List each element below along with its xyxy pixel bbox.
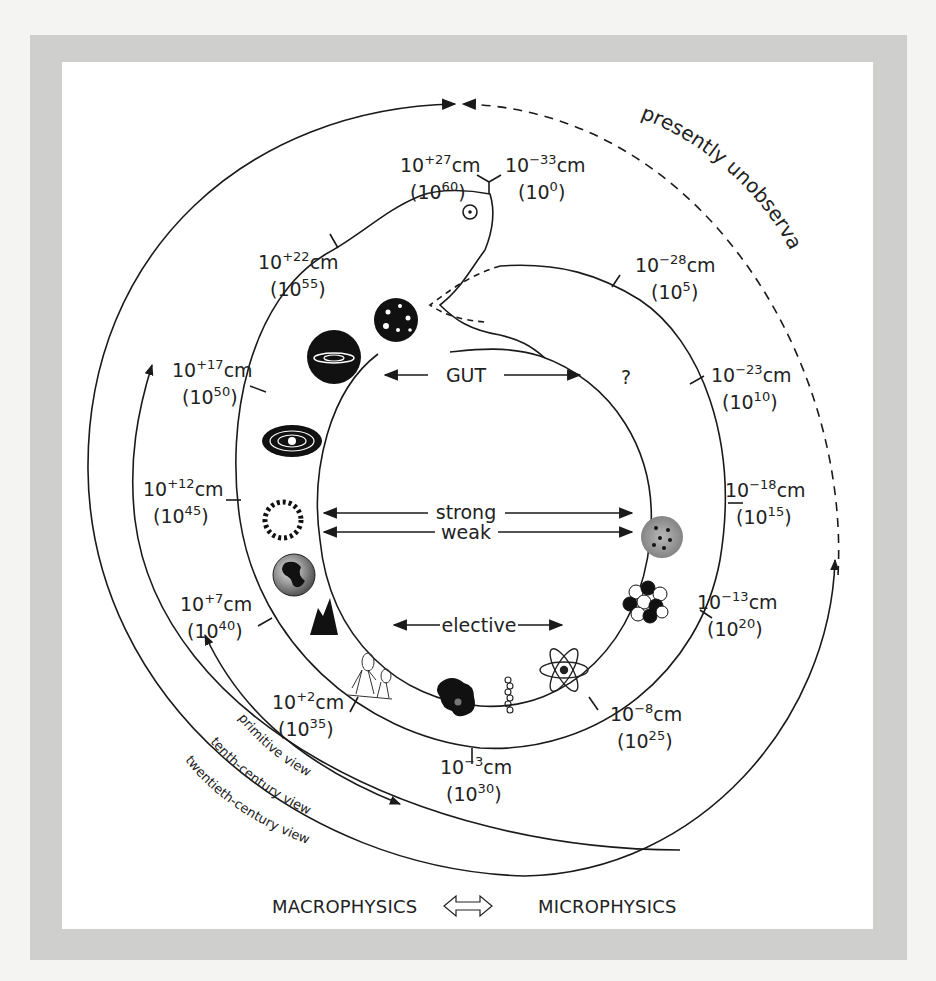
svg-text:10+2cm: 10+2cm	[272, 689, 344, 713]
proton-icon	[641, 516, 683, 558]
force-weak: weak	[441, 521, 491, 543]
force-gut: GUT	[446, 364, 487, 386]
scale-label-1e-33: 10−33cm (100)	[505, 152, 586, 203]
scale-label-1e22: 10+22cm (1055)	[258, 249, 339, 300]
sun-icon	[265, 502, 301, 538]
svg-text:(1035): (1035)	[278, 716, 334, 740]
nucleus-icon	[623, 581, 668, 623]
svg-text:10−8cm: 10−8cm	[610, 701, 682, 725]
svg-text:(105): (105)	[651, 279, 698, 303]
svg-text:10+22cm: 10+22cm	[258, 249, 339, 273]
svg-text:(1020): (1020)	[707, 616, 763, 640]
svg-text:10−13cm: 10−13cm	[697, 589, 778, 613]
svg-text:(1050): (1050)	[182, 384, 238, 408]
scale-label-1e12: 10+12cm (1045)	[143, 476, 224, 527]
scale-label-1e-13: 10−13cm (1020)	[697, 589, 778, 640]
macrophysics-label: MACROPHYSICS	[272, 896, 417, 917]
svg-text:10−33cm: 10−33cm	[505, 152, 586, 176]
svg-text:(1015): (1015)	[736, 504, 792, 528]
double-arrow-icon	[444, 896, 492, 916]
svg-text:10−28cm: 10−28cm	[635, 252, 716, 276]
svg-text:10−23cm: 10−23cm	[711, 362, 792, 386]
svg-text:10−3cm: 10−3cm	[440, 754, 512, 778]
uroboros-diagram: GUT ? strong weak elective	[0, 0, 936, 981]
svg-text:(1030): (1030)	[446, 781, 502, 805]
mountain-icon	[310, 598, 338, 635]
force-elective: elective	[442, 614, 517, 636]
svg-text:10+27cm: 10+27cm	[400, 152, 481, 176]
solar-system-icon	[262, 425, 322, 457]
scale-label-1e-8: 10−8cm (1025)	[610, 701, 682, 752]
scale-label-1e-23: 10−23cm (1010)	[711, 362, 792, 413]
scale-ticks	[226, 234, 743, 764]
svg-text:(100): (100)	[518, 179, 565, 203]
earth-icon	[273, 554, 315, 596]
scale-label-1e27: 10+27cm (1060)	[400, 152, 481, 203]
microphysics-label: MICROPHYSICS	[538, 896, 677, 917]
svg-text:(1060): (1060)	[410, 179, 466, 203]
cell-icon	[437, 678, 475, 716]
universe-cluster-icon	[374, 298, 418, 342]
svg-text:(1055): (1055)	[270, 276, 326, 300]
svg-text:10+7cm: 10+7cm	[180, 591, 252, 615]
galaxy-icon	[307, 330, 361, 384]
svg-text:(1045): (1045)	[153, 503, 209, 527]
force-arrows	[324, 375, 632, 625]
snake-tongue-icon	[477, 175, 501, 194]
force-unknown: ?	[621, 366, 631, 388]
scale-label-1e-3: 10−3cm (1030)	[440, 754, 512, 805]
scale-label-1e7: 10+7cm (1040)	[180, 591, 252, 642]
svg-text:10+17cm: 10+17cm	[172, 357, 253, 381]
force-strong: strong	[436, 501, 496, 523]
svg-text:(1025): (1025)	[617, 728, 673, 752]
humans-icon	[348, 653, 392, 699]
svg-text:(1010): (1010)	[722, 389, 778, 413]
presently-unobservable-label: presently unobservable	[0, 0, 807, 253]
dna-icon	[505, 677, 513, 713]
svg-text:(1040): (1040)	[187, 618, 243, 642]
svg-text:10+12cm: 10+12cm	[143, 476, 224, 500]
scale-label-1e2: 10+2cm (1035)	[272, 689, 344, 740]
scale-label-1e-28: 10−28cm (105)	[635, 252, 716, 303]
svg-text:10−18cm: 10−18cm	[725, 477, 806, 501]
